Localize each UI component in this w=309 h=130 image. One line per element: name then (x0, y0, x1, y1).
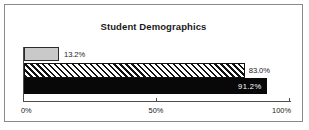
bar-row: 13.2% (24, 47, 290, 61)
bar-label-series-3: 91.2% (238, 82, 262, 91)
x-axis: 0% 50% 100% (23, 101, 291, 102)
bar-series-2 (24, 63, 245, 78)
x-tick-label-50: 50% (149, 106, 164, 115)
bar-series-3: 91.2% (24, 78, 267, 94)
plot-area: 13.2% 83.0% 91.2% (23, 47, 291, 99)
bar-label-series-1: 13.2% (64, 50, 85, 59)
chart-frame: Student Demographics 13.2% 83.0% 91.2% 0… (4, 4, 303, 122)
bar-label-series-2: 83.0% (249, 66, 270, 75)
x-tick-0 (23, 98, 24, 101)
bar-series-1 (24, 47, 59, 61)
x-tick-label-0: 0% (21, 106, 32, 115)
x-tick-label-100: 100% (272, 106, 291, 115)
chart-title: Student Demographics (5, 21, 302, 32)
x-tick-100 (289, 98, 290, 101)
bar-row: 91.2% (24, 78, 290, 94)
bar-row: 83.0% (24, 63, 290, 78)
x-tick-50 (156, 98, 157, 101)
